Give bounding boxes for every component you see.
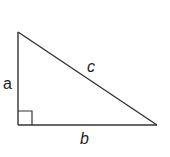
right-angle-marker-icon	[18, 111, 32, 125]
side-c-label: c	[87, 59, 95, 75]
side-c-hypotenuse-line	[18, 32, 157, 125]
side-a-label: a	[3, 76, 12, 92]
side-b-label: b	[80, 131, 89, 147]
right-triangle-diagram: a c b	[0, 0, 170, 157]
